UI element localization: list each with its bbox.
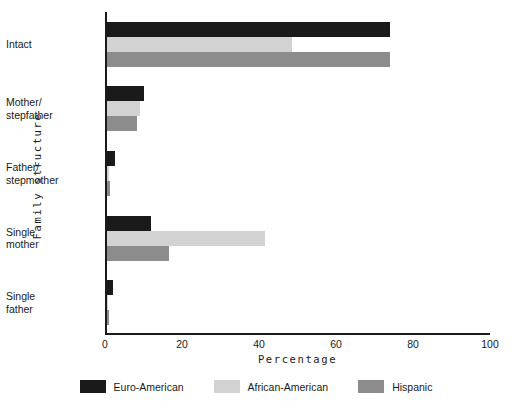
bar <box>107 280 113 295</box>
legend-label: African-American <box>248 381 329 393</box>
x-tick-label: 0 <box>85 338 125 350</box>
legend-label: Euro-American <box>114 381 184 393</box>
category-label-line: mother <box>6 238 98 251</box>
category-label-line: Father/ <box>6 161 98 174</box>
category-label-line: Intact <box>6 38 98 51</box>
legend-item: Euro-American <box>80 380 184 393</box>
plot-area <box>105 12 490 335</box>
bar <box>107 116 137 131</box>
bar <box>107 216 151 231</box>
bar <box>107 166 109 181</box>
x-tick-label: 40 <box>239 338 279 350</box>
x-tick-label: 80 <box>393 338 433 350</box>
bar <box>107 86 144 101</box>
bar <box>107 295 108 310</box>
x-axis-title: Percentage <box>105 353 490 365</box>
legend: Euro-AmericanAfrican-AmericanHispanic <box>0 380 512 393</box>
legend-item: Hispanic <box>358 380 432 393</box>
x-tick-label: 60 <box>316 338 356 350</box>
x-tick-label: 20 <box>162 338 202 350</box>
bar <box>107 181 110 196</box>
x-axis-line <box>105 333 490 335</box>
category-label: Intact <box>6 38 98 51</box>
category-label-line: Single <box>6 290 98 303</box>
bar <box>107 246 169 261</box>
family-structure-bar-chart: Family structure IntactMother/stepfather… <box>0 0 512 417</box>
category-label: Mother/stepfather <box>6 96 98 121</box>
category-label-line: father <box>6 303 98 316</box>
category-label: Singlemother <box>6 226 98 251</box>
legend-swatch-icon <box>214 380 240 393</box>
legend-swatch-icon <box>358 380 384 393</box>
legend-swatch-icon <box>80 380 106 393</box>
x-tick-label: 100 <box>470 338 510 350</box>
bar <box>107 310 109 325</box>
legend-item: African-American <box>214 380 329 393</box>
category-label-line: stepmother <box>6 174 98 187</box>
bar <box>107 101 140 116</box>
category-label-line: Single <box>6 226 98 239</box>
category-label: Singlefather <box>6 290 98 315</box>
category-label-line: Mother/ <box>6 96 98 109</box>
bar <box>107 151 115 166</box>
bar <box>107 231 265 246</box>
category-label: Father/stepmother <box>6 161 98 186</box>
category-label-line: stepfather <box>6 109 98 122</box>
bar <box>107 52 390 67</box>
bar <box>107 37 292 52</box>
bar <box>107 22 390 37</box>
legend-label: Hispanic <box>392 381 432 393</box>
